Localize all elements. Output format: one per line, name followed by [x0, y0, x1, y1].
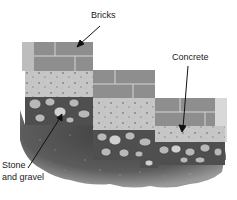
- concrete-label: Concrete: [172, 52, 209, 63]
- cross-section-illustration: [0, 0, 237, 200]
- paving-layers-diagram: Bricks Concrete Stone and gravel: [0, 0, 237, 200]
- tier-2: [93, 70, 155, 160]
- stone-gravel-label-line1: Stone: [2, 160, 26, 171]
- bricks-label: Bricks: [91, 10, 116, 21]
- stone-gravel-label-line2: and gravel: [2, 172, 44, 183]
